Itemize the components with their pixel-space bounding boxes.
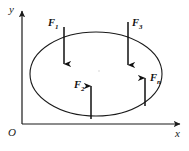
force-label-base-Fn: F	[149, 72, 157, 83]
force-label-base-F3: F	[131, 17, 139, 28]
force-label-sub-F3: 3	[138, 23, 143, 31]
force-label-sub-F2: 2	[80, 85, 85, 93]
closed-region-ellipse	[30, 32, 162, 116]
force-label-base-F1: F	[47, 17, 55, 28]
force-label-sub-Fn: n	[157, 78, 161, 86]
origin-label: O	[8, 126, 16, 138]
axes-group: y O x	[8, 3, 180, 139]
force-label-sub-F1: 1	[55, 23, 59, 31]
closed-region-group	[30, 32, 162, 116]
y-axis-label: y	[8, 3, 14, 15]
force-label-base-F2: F	[73, 79, 81, 90]
x-axis-label: x	[174, 127, 180, 139]
force-label-Fn: Fn	[149, 72, 161, 86]
force-label-F2: F2	[73, 79, 85, 93]
force-label-F3: F3	[131, 17, 143, 31]
region-center-dot	[98, 70, 99, 71]
force-vector-F3: F3	[128, 17, 143, 65]
force-vector-F2: F2	[73, 79, 91, 119]
force-diagram-figure: y O x F1 F3 F2	[0, 0, 189, 151]
diagram-canvas: y O x F1 F3 F2	[0, 0, 189, 151]
force-label-F1: F1	[47, 17, 59, 31]
